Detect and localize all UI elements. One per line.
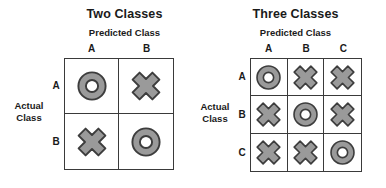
column-header-b-secondary: B [287, 44, 324, 54]
matrix-cell-b-b-secondary [288, 96, 325, 133]
matrix-cell-a-b-secondary [288, 59, 325, 96]
matrix-cell-c-c-secondary [324, 134, 361, 171]
row-header-a: A [49, 58, 63, 114]
matrix-grid-three-classes [250, 58, 362, 172]
actual-class-label-line1-secondary: Actual [194, 101, 236, 113]
incorrect-cross-icon [255, 101, 282, 128]
matrix-cell-b-b [119, 114, 173, 169]
matrix-cell-b-a [65, 114, 119, 169]
row-header-column: A B [49, 58, 63, 170]
matrix-cell-b-c-secondary [324, 96, 361, 133]
row-header-b-secondary: B [235, 96, 249, 134]
actual-class-label-line2-secondary: Class [194, 113, 236, 125]
matrix-cell-a-b [119, 59, 173, 114]
incorrect-cross-icon [292, 139, 319, 166]
column-header-row: A B [64, 42, 174, 56]
actual-class-label-line1: Actual [8, 100, 50, 112]
row-header-b: B [49, 114, 63, 170]
matrix-grid-two-classes [64, 58, 174, 170]
matrix-cell-a-a [65, 59, 119, 114]
column-header-row-secondary: A B C [250, 42, 362, 56]
row-header-a-secondary: A [235, 58, 249, 96]
correct-ring-icon [329, 139, 356, 166]
actual-class-label-line2: Class [8, 112, 50, 124]
correct-ring-icon [76, 70, 108, 102]
incorrect-cross-icon [130, 70, 162, 102]
incorrect-cross-icon [76, 126, 108, 158]
row-header-c-secondary: C [235, 134, 249, 172]
actual-class-label: Actual Class [8, 100, 50, 124]
row-header-column-secondary: A B C [235, 58, 249, 172]
incorrect-cross-icon [329, 64, 356, 91]
correct-ring-icon [130, 126, 162, 158]
predicted-class-label: Predicted Class [0, 27, 221, 38]
incorrect-cross-icon [329, 101, 356, 128]
matrix-cell-a-a-secondary [251, 59, 288, 96]
matrix-cell-c-b-secondary [288, 134, 325, 171]
correct-ring-icon [255, 64, 282, 91]
matrix-cell-a-c-secondary [324, 59, 361, 96]
incorrect-cross-icon [255, 139, 282, 166]
page-title: Two Classes [0, 7, 221, 21]
column-header-a-secondary: A [250, 44, 287, 54]
matrix-cell-c-a-secondary [251, 134, 288, 171]
column-header-a: A [64, 44, 119, 54]
confusion-matrix-panel-two-classes: Two Classes Predicted Class A B A B Actu… [0, 0, 193, 188]
page-title-secondary: Three Classes [193, 7, 386, 21]
incorrect-cross-icon [292, 64, 319, 91]
confusion-matrix-panel-three-classes: Three Classes Predicted Class A B C A B … [193, 0, 386, 188]
column-header-b: B [119, 44, 174, 54]
predicted-class-label-secondary: Predicted Class [193, 27, 386, 38]
correct-ring-icon [292, 101, 319, 128]
matrix-cell-b-a-secondary [251, 96, 288, 133]
figure-canvas: Two Classes Predicted Class A B A B Actu… [0, 0, 386, 188]
column-header-c-secondary: C [325, 44, 362, 54]
actual-class-label-secondary: Actual Class [194, 101, 236, 125]
